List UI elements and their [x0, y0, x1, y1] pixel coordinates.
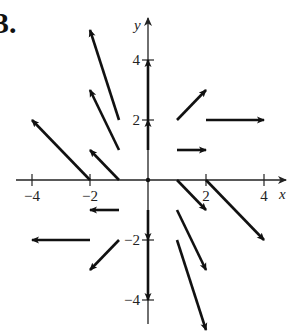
vector-arrow [90, 30, 119, 120]
x-tick-label: −2 [82, 188, 98, 204]
axes: xy [16, 17, 286, 324]
origin-dot [146, 178, 150, 182]
vector-arrow [177, 90, 206, 120]
vector-arrow [206, 180, 264, 240]
x-tick-label: −4 [24, 188, 40, 204]
vector-arrow [177, 240, 206, 330]
vector-arrow [90, 240, 119, 270]
x-axis-label: x [278, 186, 286, 202]
vector-arrow [90, 90, 119, 150]
y-tick-label: −2 [124, 232, 140, 248]
vector-arrow [177, 210, 206, 270]
vector-arrow [90, 150, 119, 180]
y-tick-label: 2 [133, 112, 141, 128]
x-tick-label: 4 [260, 188, 268, 204]
y-axis-label: y [132, 17, 141, 33]
vector-field-plot: xy −4−22442−2−4 [0, 0, 291, 332]
x-tick-label: 2 [202, 188, 210, 204]
y-tick-label: 4 [133, 52, 141, 68]
vector-arrow [32, 120, 90, 180]
y-tick-label: −4 [124, 292, 140, 308]
